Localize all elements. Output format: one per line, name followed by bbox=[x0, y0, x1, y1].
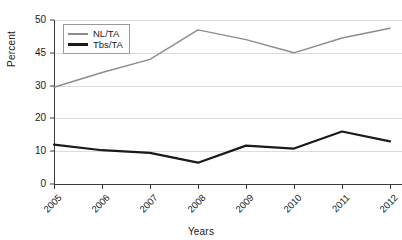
plot-area bbox=[0, 0, 402, 240]
legend-swatch-tbs-ta-icon bbox=[68, 43, 88, 46]
legend-label-tbs-ta: Tbs/TA bbox=[93, 39, 123, 50]
legend-item-nl-ta: NL/TA bbox=[68, 28, 123, 39]
legend-swatch-nl-ta-icon bbox=[68, 33, 88, 35]
legend: NL/TA Tbs/TA bbox=[63, 24, 130, 54]
legend-item-tbs-ta: Tbs/TA bbox=[68, 39, 123, 50]
line-chart: Percent Years 50453020100 20052006200720… bbox=[0, 0, 402, 240]
legend-label-nl-ta: NL/TA bbox=[93, 28, 119, 39]
series-line-tbs-ta bbox=[54, 132, 390, 163]
